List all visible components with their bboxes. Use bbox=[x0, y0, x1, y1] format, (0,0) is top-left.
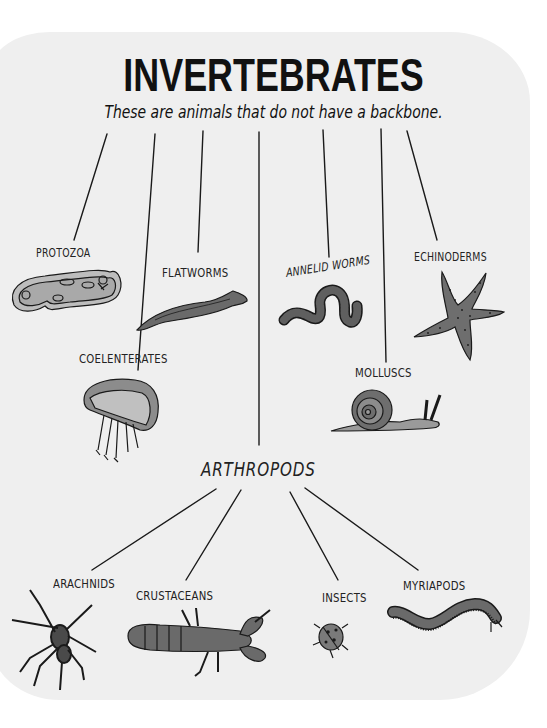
connector-coelenterates bbox=[138, 134, 155, 370]
label-echinoderms: ECHINODERMS bbox=[414, 250, 487, 264]
flatworm-illustration bbox=[137, 291, 247, 330]
starfish-illustration bbox=[414, 272, 504, 360]
label-arthropods: ARTHROPODS bbox=[201, 458, 316, 480]
spider-illustration bbox=[12, 590, 96, 690]
snail-illustration bbox=[331, 390, 440, 431]
paramecium-illustration bbox=[12, 270, 120, 311]
label-coelenterates: COELENTERATES bbox=[79, 351, 168, 366]
connector-flatworms bbox=[198, 131, 203, 252]
connector-myriapods bbox=[305, 488, 418, 570]
millipede-illustration bbox=[393, 604, 502, 632]
connector-echinoderms bbox=[407, 131, 437, 240]
label-myriapods: MYRIAPODS bbox=[403, 578, 465, 593]
label-molluscs: MOLLUSCS bbox=[355, 365, 412, 380]
jellyfish-illustration bbox=[84, 379, 158, 462]
connector-molluscs bbox=[381, 129, 386, 362]
label-crustaceans: CRUSTACEANS bbox=[136, 588, 213, 603]
label-flatworms: FLATWORMS bbox=[162, 265, 228, 280]
label-arachnids: ARACHNIDS bbox=[53, 576, 115, 591]
connector-protozoa bbox=[74, 134, 107, 240]
label-protozoa: PROTOZOA bbox=[36, 246, 90, 260]
lobster-illustration bbox=[128, 608, 270, 676]
connector-arachnids bbox=[92, 489, 216, 570]
ladybird-illustration bbox=[313, 624, 348, 658]
earthworm-illustration bbox=[284, 290, 357, 322]
connector-annelid-worms bbox=[323, 130, 329, 257]
connector-insects bbox=[290, 492, 338, 580]
label-insects: INSECTS bbox=[322, 590, 367, 605]
